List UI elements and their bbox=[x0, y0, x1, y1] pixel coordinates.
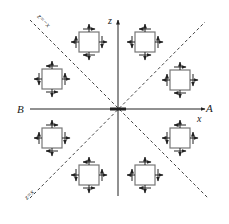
x-axis-label: x bbox=[196, 113, 202, 124]
origin-marker bbox=[110, 108, 126, 111]
diag-pos-label: z=x bbox=[22, 188, 36, 202]
stress-element bbox=[162, 120, 198, 156]
element-square bbox=[42, 128, 62, 148]
stress-element bbox=[127, 24, 163, 60]
element-square bbox=[170, 70, 190, 90]
stress-element bbox=[127, 157, 163, 193]
element-square bbox=[79, 165, 99, 185]
z-axis-label: z bbox=[107, 15, 112, 26]
element-square bbox=[170, 128, 190, 148]
element-square bbox=[135, 32, 155, 52]
stress-diagram: z x A B z=−x z=x bbox=[0, 0, 229, 224]
stress-element bbox=[34, 61, 70, 97]
stress-element bbox=[71, 24, 107, 60]
element-square bbox=[79, 32, 99, 52]
point-a-label: A bbox=[205, 102, 213, 114]
stress-element bbox=[34, 120, 70, 156]
stress-element bbox=[71, 157, 107, 193]
element-square bbox=[42, 69, 62, 89]
stress-element bbox=[162, 62, 198, 98]
diag-neg-label: z=−x bbox=[35, 12, 53, 30]
point-b-label: B bbox=[17, 103, 24, 115]
element-square bbox=[135, 165, 155, 185]
